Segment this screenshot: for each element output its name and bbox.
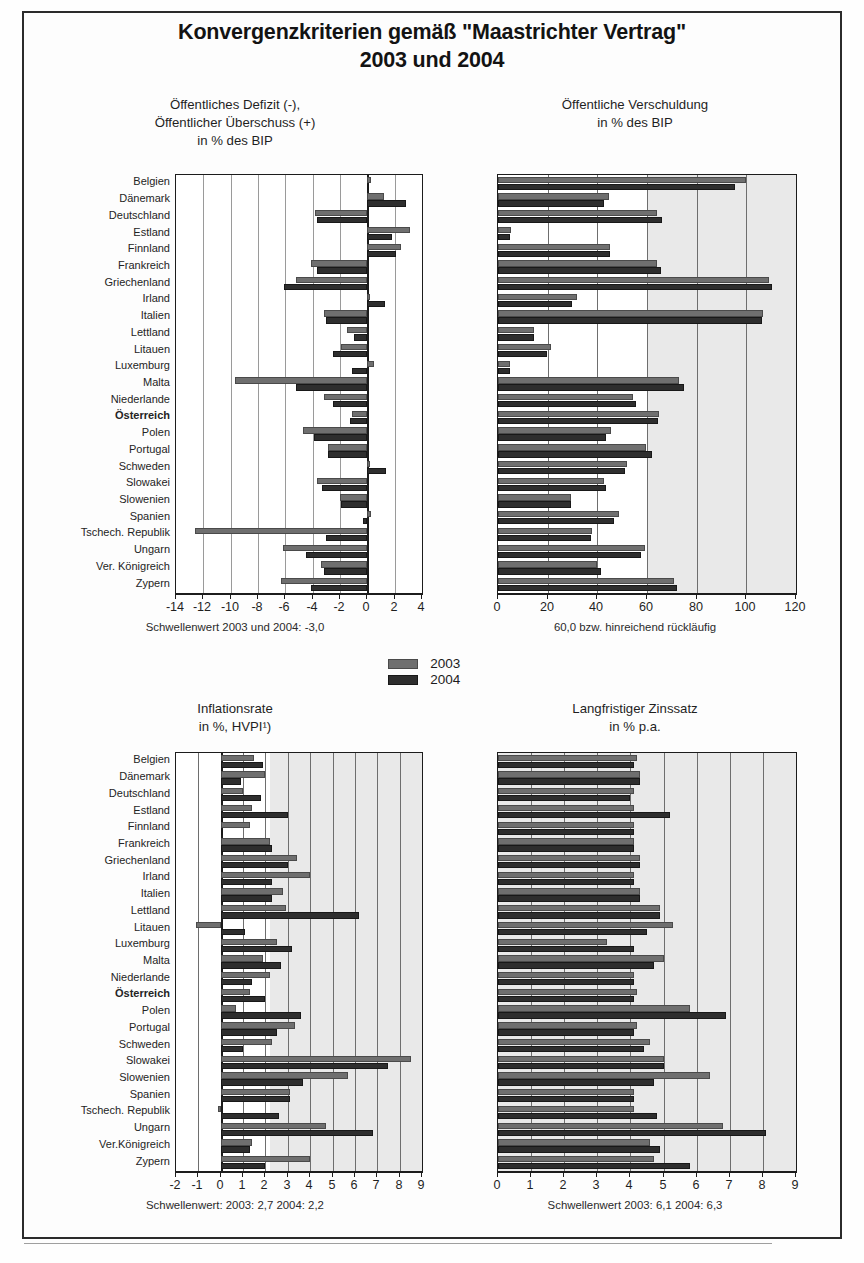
axis-tick-label: 9 [778, 1178, 812, 1192]
category-label-tschech-republik: Tschech. Republik [81, 1105, 170, 1116]
gridline [763, 753, 764, 1171]
chart-panel-deficit: Öffentliches Defizit (-), Öffentlicher Ü… [40, 96, 430, 641]
bar-debt-frankreich-2003 [498, 260, 657, 266]
bar-debt-spanien-2004 [498, 518, 614, 524]
category-label-spanien: Spanien [130, 1089, 170, 1100]
bar-inflation-luxemburg-2003 [221, 939, 277, 945]
bar-interest-spanien-2004 [498, 1096, 634, 1102]
axis-tick-label: 6 [679, 1178, 713, 1192]
bar-deficit-deutschland-2004 [317, 217, 368, 223]
chart-panel-inflation: Inflationsrate in %, HVPI¹) BelgienDänem… [40, 700, 430, 1230]
bar-deficit-tschech-republik-2003 [195, 528, 367, 534]
category-label-spanien: Spanien [130, 511, 170, 522]
bar-inflation-griechenland-2004 [221, 862, 288, 868]
bar-interest-polen-2004 [498, 1012, 726, 1018]
bar-inflation-tschech-republik-2004 [221, 1113, 279, 1119]
bar-deficit-litauen-2003 [341, 344, 367, 350]
gridline [198, 753, 199, 1171]
bar-inflation-frankreich-2003 [221, 838, 270, 844]
bar-interest-slowakei-2003 [498, 1056, 664, 1062]
axis-tick-label: 0 [480, 1178, 514, 1192]
bar-interest-slowenien-2003 [498, 1072, 710, 1078]
axis-tick [795, 1172, 796, 1177]
category-label-tschech-republik: Tschech. Republik [81, 527, 170, 538]
bar-inflation-malta-2004 [221, 962, 281, 968]
bar-deficit-malta-2003 [235, 377, 368, 383]
bar-debt-deutschland-2003 [498, 210, 657, 216]
category-label-luxemburg: Luxemburg [115, 360, 170, 371]
gridline [746, 175, 747, 593]
category-label-italien: Italien [141, 888, 170, 899]
bar-inflation-slowakei-2004 [221, 1063, 389, 1069]
chart-title-inflation: Inflationsrate in %, HVPI¹) [40, 700, 430, 736]
bar-inflation-d-nemark-2003 [221, 771, 266, 777]
bar-interest-belgien-2004 [498, 762, 634, 768]
category-label-italien: Italien [141, 310, 170, 321]
bar-debt-finnland-2004 [498, 251, 610, 257]
bar-deficit-deutschland-2003 [315, 210, 367, 216]
category-label-griechenland: Griechenland [105, 855, 170, 866]
bar-interest-belgien-2003 [498, 755, 637, 761]
bar-inflation-finnland-2004 [221, 829, 223, 835]
x-axis-inflation: -2-10123456789 [175, 1172, 423, 1173]
category-label-luxemburg: Luxemburg [115, 938, 170, 949]
axis-tick [399, 1172, 400, 1177]
chart-title-debt: Öffentliche Verschuldung in % des BIP [440, 96, 830, 132]
footer-divider [24, 1243, 772, 1244]
bar-debt-griechenland-2003 [498, 277, 769, 283]
axis-tick [366, 594, 367, 599]
bar-inflation-slowakei-2003 [221, 1056, 411, 1062]
bar-interest-slowenien-2004 [498, 1079, 654, 1085]
bar-deficit-ungarn-2004 [306, 552, 368, 558]
bar-debt-zypern-2004 [498, 585, 677, 591]
bar-inflation-ver-k-nigreich-2004 [221, 1146, 250, 1152]
bar-interest-litauen-2003 [498, 922, 673, 928]
bar-inflation--sterreich-2004 [221, 996, 266, 1002]
category-label-slowenien: Slowenien [119, 1072, 170, 1083]
axis-tick-label: 4 [612, 1178, 646, 1192]
bar-deficit-malta-2004 [296, 384, 367, 390]
plot-area-inflation [175, 752, 423, 1172]
bar-inflation-zypern-2003 [221, 1156, 310, 1162]
bar-deficit-schweden-2004 [367, 468, 386, 474]
bar-inflation-luxemburg-2004 [221, 946, 293, 952]
bar-interest-ver-k-nigreich-2004 [498, 1146, 660, 1152]
axis-tick [421, 1172, 422, 1177]
bar-deficit-estland-2004 [367, 234, 392, 240]
legend-label-2004: 2004 [430, 672, 476, 688]
axis-tick [729, 1172, 730, 1177]
bar-deficit-italien-2004 [326, 317, 367, 323]
bar-interest-estland-2003 [498, 805, 634, 811]
bar-inflation-lettland-2004 [221, 912, 360, 918]
bar-inflation-italien-2003 [221, 888, 284, 894]
chart-title-inflation-line1: Inflationsrate [40, 700, 430, 718]
bar-inflation-niederlande-2003 [221, 972, 270, 978]
category-label-d-nemark: Dänemark [119, 771, 170, 782]
category-label-estland: Estland [133, 805, 170, 816]
bar-interest-polen-2003 [498, 1005, 690, 1011]
bar-deficit-d-nemark-2003 [367, 193, 383, 199]
axis-tick [696, 1172, 697, 1177]
threshold-note-inflation: Schwellenwert: 2003: 2,7 2004: 2,2 [40, 1199, 430, 1211]
bar-inflation-lettland-2003 [221, 905, 286, 911]
category-labels-deficit: BelgienDänemarkDeutschlandEstlandFinnlan… [40, 174, 170, 594]
bar-inflation-irland-2003 [221, 872, 310, 878]
bar-interest-zypern-2003 [498, 1156, 654, 1162]
bar-interest-tschech-republik-2004 [498, 1113, 657, 1119]
bar-debt-belgien-2004 [498, 184, 735, 190]
bar-deficit-niederlande-2004 [333, 401, 367, 407]
axis-tick-label: 4 [404, 600, 438, 614]
bar-deficit-ver-k-nigreich-2003 [321, 561, 367, 567]
bar-inflation--sterreich-2003 [221, 989, 250, 995]
axis-tick [530, 1172, 531, 1177]
bar-deficit-griechenland-2004 [284, 284, 367, 290]
axis-tick [497, 1172, 498, 1177]
chart-title-deficit: Öffentliches Defizit (-), Öffentlicher Ü… [40, 96, 430, 151]
bar-inflation-spanien-2003 [221, 1089, 290, 1095]
axis-tick-label: 60 [629, 600, 663, 614]
bar-inflation-griechenland-2003 [221, 855, 297, 861]
axis-tick [376, 1172, 377, 1177]
axis-tick [309, 1172, 310, 1177]
bar-inflation-d-nemark-2004 [221, 778, 241, 784]
bar-inflation-portugal-2003 [221, 1022, 295, 1028]
